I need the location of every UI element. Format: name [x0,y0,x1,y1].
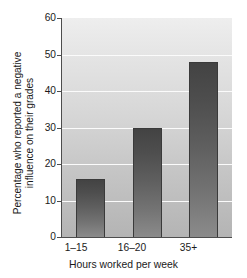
y-tick-label-0: 0 [50,232,56,242]
gridline-50 [62,55,232,56]
y-axis-spine [61,18,62,238]
y-axis-tick-labels: 60 50 40 30 20 10 0 [38,0,56,278]
plot-area [62,18,232,237]
y-axis-title-line-1: Percentage who reported a negative [12,52,25,215]
x-tick-label-1-15: 1–15 [60,242,92,254]
y-tick-label-20: 20 [45,159,56,169]
x-axis-spine [61,237,232,238]
x-tick-label-35-plus: 35+ [173,242,205,254]
y-tick-label-60: 60 [45,13,56,23]
x-tick-label-16-20: 16–20 [116,242,148,254]
y-tick-label-30: 30 [45,123,56,133]
bar-chart-figure: Percentage who reported a negative influ… [0,0,247,278]
y-axis-title: Percentage who reported a negative influ… [9,23,39,243]
bar-35-plus [189,62,218,237]
y-tick-label-40: 40 [45,86,56,96]
bar-16-20 [133,128,162,238]
bar-1-15 [76,179,105,237]
x-axis-title: Hours worked per week [0,259,247,270]
y-tick-label-50: 50 [45,50,56,60]
y-axis-title-line-2: influence on their grades [24,78,37,188]
y-tick-label-10: 10 [45,196,56,206]
